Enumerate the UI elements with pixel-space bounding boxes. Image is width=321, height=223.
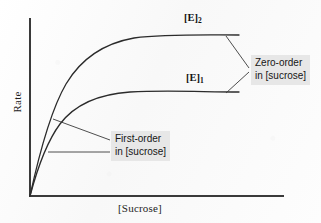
curve-label-e2-base: [E] [184,12,198,23]
callout-zero-order: Zero-order in [sucrose] [251,55,310,85]
figure-canvas: Rate [Sucrose] [E]2 [E]1 Zero-order in [… [0,0,321,223]
curve-label-e2: [E]2 [184,12,202,23]
callout-first-order-line-2: in [sucrose] [115,146,166,159]
y-axis-title: Rate [11,79,23,125]
callout-zero-order-line-1: Zero-order [255,57,306,70]
leader-zero-order-to-e1 [226,72,249,93]
callout-zero-order-line-2: in [sucrose] [255,70,306,83]
x-axis-title: [Sucrose] [118,202,162,214]
curve-label-e1-base: [E] [186,72,200,83]
curve-label-e1-subscript: 1 [200,76,204,85]
leader-zero-order-to-e2 [226,36,249,68]
leader-first-order-to-e2 [53,119,110,140]
curve-label-e1: [E]1 [186,72,204,83]
curve-label-e2-subscript: 2 [198,16,202,25]
curve-e2 [30,35,239,196]
plot-drawing [0,0,321,223]
callout-first-order: First-order in [sucrose] [111,131,170,161]
callout-first-order-line-1: First-order [115,133,166,146]
